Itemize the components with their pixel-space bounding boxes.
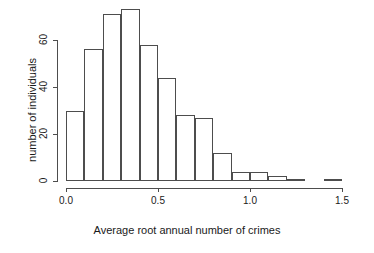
plot-area: 0.00.51.01.5 0204060 [0, 0, 374, 253]
histogram-figure: 0.00.51.01.5 0204060 Average root annual… [0, 0, 374, 253]
x-axis-line [66, 188, 342, 189]
y-axis-line [57, 40, 58, 182]
histogram-bar [287, 179, 305, 181]
y-tick-mark [53, 40, 57, 41]
histogram-bar [84, 49, 102, 181]
histogram-bar [158, 78, 176, 181]
y-tick-label: 20 [38, 127, 49, 141]
histogram-bar [195, 118, 213, 181]
x-tick-mark [66, 188, 67, 192]
x-tick-label: 0.5 [138, 195, 178, 207]
histogram-bar [176, 115, 194, 181]
y-tick-mark [53, 87, 57, 88]
y-tick-mark [53, 181, 57, 182]
x-tick-mark [250, 188, 251, 192]
x-tick-mark [342, 188, 343, 192]
y-tick-label: 0 [38, 174, 49, 188]
histogram-bar [213, 153, 231, 181]
y-tick-label: 60 [38, 33, 49, 47]
histogram-bar [232, 172, 250, 181]
y-axis-title: number of individuals [26, 30, 38, 190]
x-tick-label: 0.0 [46, 195, 86, 207]
histogram-bar [250, 172, 268, 181]
x-tick-label: 1.0 [230, 195, 270, 207]
x-axis-title: Average root annual number of crimes [0, 224, 374, 236]
x-tick-mark [158, 188, 159, 192]
histogram-bar [268, 176, 286, 181]
x-tick-label: 1.5 [322, 195, 362, 207]
histogram-bar [103, 14, 121, 181]
histogram-bar [66, 111, 84, 182]
histogram-bar [121, 9, 139, 181]
y-tick-label: 40 [38, 80, 49, 94]
histogram-bar [140, 45, 158, 181]
y-tick-mark [53, 134, 57, 135]
histogram-bar [324, 179, 342, 181]
